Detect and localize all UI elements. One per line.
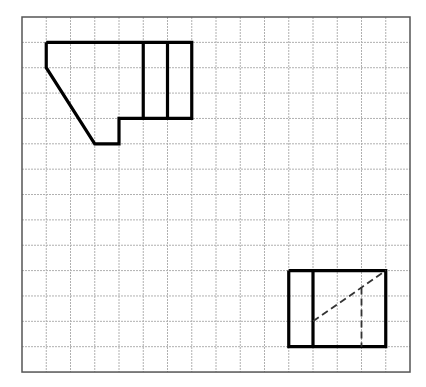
grid-lines [22,17,410,372]
grid-diagram [0,0,426,387]
diagram-svg [0,0,426,387]
